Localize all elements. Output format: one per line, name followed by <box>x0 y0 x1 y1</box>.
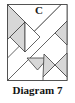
piece-label-c: C <box>30 4 48 16</box>
tangram-figure: C Diagram 7 <box>0 0 75 103</box>
diagram-caption: Diagram 7 <box>0 84 75 96</box>
